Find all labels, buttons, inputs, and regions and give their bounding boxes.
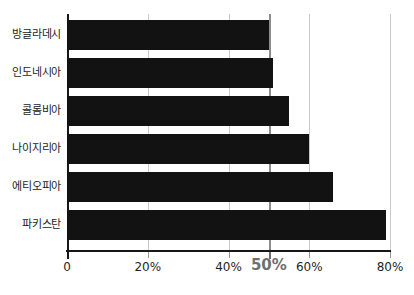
bar bbox=[67, 96, 289, 126]
category-label: 콜롬비아 bbox=[0, 105, 61, 117]
x-tick-0 bbox=[67, 252, 69, 259]
x-tick-20 bbox=[148, 252, 149, 258]
x-tick-label-0: 0 bbox=[63, 260, 71, 274]
bar bbox=[67, 134, 309, 164]
plot-area bbox=[67, 14, 390, 251]
x-tick-label-40: 40% bbox=[215, 260, 242, 274]
category-label: 인도네시아 bbox=[0, 67, 61, 79]
x-tick-label-20: 20% bbox=[134, 260, 161, 274]
bar bbox=[67, 210, 386, 240]
category-label: 나이지리아 bbox=[0, 143, 61, 155]
category-label: 방글라데시 bbox=[0, 29, 61, 41]
category-label: 파키스탄 bbox=[0, 219, 61, 231]
x-tick-40 bbox=[229, 252, 230, 258]
x-tick-label-50: 50% bbox=[251, 257, 287, 273]
x-tick-60 bbox=[309, 252, 310, 258]
x-tick-80 bbox=[390, 252, 391, 258]
x-tick-label-80: 80% bbox=[377, 260, 404, 274]
horizontal-bar-chart: 방글라데시인도네시아콜롬비아나이지리아에티오피아파키스탄 020%40%50%6… bbox=[0, 0, 414, 295]
bar bbox=[67, 172, 333, 202]
gridline-80 bbox=[390, 14, 391, 251]
x-tick-label-60: 60% bbox=[296, 260, 323, 274]
category-label: 에티오피아 bbox=[0, 181, 61, 193]
bar bbox=[67, 20, 269, 50]
bar bbox=[67, 58, 273, 88]
